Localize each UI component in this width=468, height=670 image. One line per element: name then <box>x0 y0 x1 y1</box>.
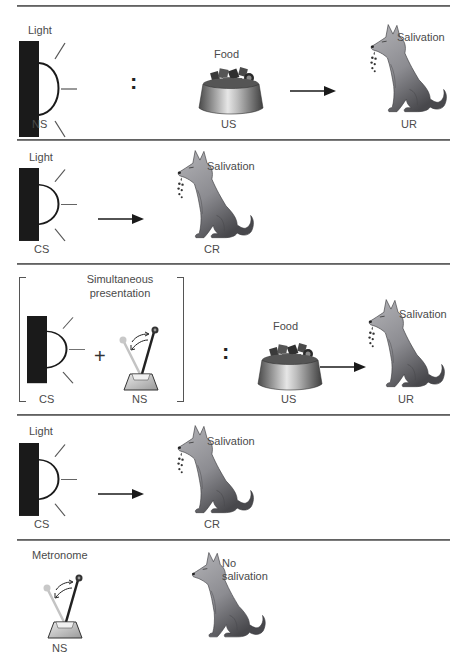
response-label: Salivation <box>207 160 255 173</box>
bracket-right <box>177 277 184 402</box>
divider <box>17 539 450 541</box>
response-role: UR <box>401 118 417 131</box>
stimulus-label: Light <box>29 151 53 164</box>
food-role: US <box>281 393 296 406</box>
divider <box>17 139 450 141</box>
food-bowl-icon <box>258 342 322 392</box>
separator-colon: : <box>222 340 229 364</box>
metronome-icon <box>118 322 168 392</box>
food-label: Food <box>273 320 298 333</box>
response-role: CR <box>204 518 220 531</box>
divider <box>17 263 450 265</box>
response-label: Salivation <box>207 435 255 448</box>
food-label: Food <box>214 48 239 61</box>
response-label: Salivation <box>397 31 445 44</box>
second-stimulus-role: NS <box>132 393 147 406</box>
response-label: Salivation <box>399 308 447 321</box>
response-label-line1: No <box>222 557 236 570</box>
stimulus-label: Light <box>29 425 53 438</box>
response-role: CR <box>204 243 220 256</box>
stimulus-role: CS <box>34 243 49 256</box>
light-icon <box>19 168 79 244</box>
arrow-right-icon <box>98 214 144 224</box>
stimulus-label: Light <box>28 24 52 37</box>
stimulus-role: CS <box>39 393 54 406</box>
arrow-right-icon <box>98 489 144 499</box>
food-role: US <box>221 118 236 131</box>
divider-top <box>17 5 450 7</box>
group-label-line2: presentation <box>70 287 170 300</box>
light-icon <box>19 443 79 519</box>
plus-sign: + <box>94 346 106 366</box>
divider <box>17 414 450 416</box>
metronome-icon <box>42 570 92 640</box>
stimulus-role: NS <box>32 118 47 131</box>
stimulus-role: NS <box>52 642 67 655</box>
stimulus-label: Metronome <box>32 549 88 562</box>
response-label-line2: salivation <box>222 570 268 583</box>
light-icon <box>19 41 79 141</box>
light-icon <box>27 316 87 386</box>
group-label-line1: Simultaneous <box>70 273 170 286</box>
bracket-left <box>19 277 26 402</box>
response-role: UR <box>398 393 414 406</box>
stimulus-role: CS <box>34 518 49 531</box>
food-bowl-icon <box>199 66 263 116</box>
arrow-right-icon <box>290 86 336 96</box>
separator-colon: : <box>130 70 137 94</box>
